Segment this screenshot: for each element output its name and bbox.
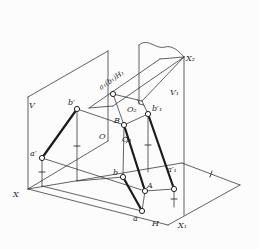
label-plane-H1-coincident-points: a₁(b₁)H₁ <box>98 69 126 92</box>
plane-H1-lower-edge <box>113 57 184 106</box>
label-plane-V1: V₁ <box>170 88 179 97</box>
segment-a-b <box>123 177 142 211</box>
plane-H1-top-edge <box>160 57 184 59</box>
segment-a1-prime-b1-prime <box>148 114 174 189</box>
plane-H-front-edge <box>28 189 168 225</box>
projection-planes-diagram: VV₁HXX₁X₂OO₁O₂a′b′abABa′₁b′₁a₁(b₁)H₁ <box>0 0 259 249</box>
label-axis-X2: X₂ <box>185 54 195 63</box>
plane-H-right-front-edge <box>168 185 240 225</box>
plane-H-back-edge <box>28 163 182 189</box>
label-axis-X1: X₁ <box>177 221 187 230</box>
plane-V1-torn-top-edge <box>139 42 184 57</box>
point-a1-prime <box>171 186 176 191</box>
label-point-b1-prime: b′₁ <box>152 104 162 113</box>
point-a1-b1-coincident <box>110 91 115 96</box>
segment-a-prime-b-prime <box>42 109 77 158</box>
recall-B-to-b <box>123 125 124 177</box>
recall-b-prime-to-b <box>77 177 123 181</box>
point-b <box>120 174 125 179</box>
ray-B-to-b1-prime <box>124 114 148 125</box>
label-point-b-prime: b′ <box>68 98 75 107</box>
label-point-b: b <box>113 168 118 177</box>
point-b1-prime <box>145 111 150 116</box>
label-point-a1-prime: a′₁ <box>167 165 177 174</box>
point-B <box>121 122 126 127</box>
label-origin-O1: O₁ <box>122 135 132 144</box>
point-b-prime <box>74 106 79 111</box>
plane-H1-left-edge <box>89 106 113 108</box>
recall-a-prime-to-a <box>42 186 142 211</box>
label-point-a: a <box>133 214 138 223</box>
label-origin-O2: O₂ <box>127 105 137 114</box>
ray-a-prime-to-A <box>42 158 145 191</box>
point-a-prime <box>39 155 44 160</box>
label-axis-X: X <box>12 190 19 199</box>
plane-V-top-edge <box>28 51 108 97</box>
plane-V-bottom-edge <box>28 141 108 189</box>
label-point-a-prime: a′ <box>30 149 37 158</box>
label-plane-H: H <box>151 219 160 228</box>
label-origin-O: O <box>99 132 106 141</box>
label-plane-V: V <box>29 101 36 110</box>
label-point-A: A <box>146 181 153 190</box>
label-point-B: B <box>113 116 120 125</box>
figure-canvas: VV₁HXX₁X₂OO₁O₂a′b′abABa′₁b′₁a₁(b₁)H₁ <box>0 0 259 249</box>
point-a <box>139 208 144 213</box>
